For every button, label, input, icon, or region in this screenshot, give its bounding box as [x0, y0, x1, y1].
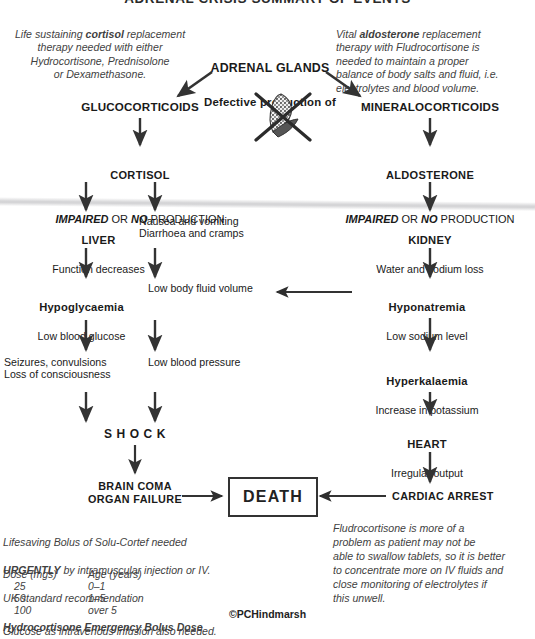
fludrocortisone-note: Fludrocortisone is more of a problem as …: [333, 521, 533, 605]
table-row: 25 0–1: [3, 581, 198, 593]
table-row: 50 1–5: [3, 593, 198, 605]
hypoglycaemia-sublabel: Low blood glucose: [14, 331, 149, 343]
liver-sublabel: Function decreases: [29, 264, 168, 276]
dose-value: 25: [3, 581, 88, 593]
kidney-sublabel: Water and sodium loss: [340, 264, 520, 276]
hypoglycaemia-node: Hypoglycaemia Low blood glucose: [14, 283, 149, 361]
hyponatremia-node: Hyponatremia Low sodium level: [352, 283, 502, 361]
dose-value: 50: [3, 593, 88, 605]
heart-node: HEART Irregular output: [352, 420, 502, 498]
hypoglycaemia-label: Hypoglycaemia: [14, 301, 149, 314]
aldosterone-note-keyword: aldosterone: [359, 28, 419, 40]
cortisol-replacement-note: Life sustaining cortisol replacement the…: [2, 14, 198, 82]
column-header-age: Age (years): [88, 569, 198, 581]
gi-symptoms-node: Nausea and vomiting Diarrhoea and cramps: [139, 216, 269, 240]
treatment-line-1: Lifesaving Bolus of Solu-Cortef needed: [3, 536, 187, 548]
adrenal-glands-label: ADRENAL GLANDS: [190, 62, 350, 76]
column-header-dose: Dose (mgs): [3, 569, 88, 581]
death-node: DEATH: [228, 477, 318, 517]
hyponatremia-sublabel: Low sodium level: [352, 331, 502, 343]
cortisol-note-keyword: cortisol: [86, 28, 124, 40]
heart-sublabel: Irregular output: [352, 468, 502, 480]
cardiac-arrest-node: CARDIAC ARREST: [392, 490, 532, 502]
aldosterone-replacement-note: Vital aldosterone replacement therapy wi…: [336, 14, 534, 95]
cortisol-note-part1: Life sustaining: [15, 28, 86, 40]
aldosterone-note-part1: Vital: [336, 28, 359, 40]
mineralocorticoids-node: MINERALOCORTICOIDS: [330, 100, 530, 113]
hyponatremia-label: Hyponatremia: [352, 301, 502, 314]
aldosterone-label: ALDOSTERONE: [325, 169, 535, 181]
diagram-canvas: ADRENAL CRISIS SUMMARY OF EVENTS Life su…: [0, 0, 535, 639]
seizures-node: Seizures, convulsions Loss of consciousn…: [4, 357, 144, 381]
copyright-label: ©PCHindmarsh: [0, 608, 535, 620]
crossed-out-adrenal-gland-icon: [248, 86, 318, 146]
page-title: ADRENAL CRISIS SUMMARY OF EVENTS: [0, 0, 535, 6]
kidney-label: KIDNEY: [340, 234, 520, 247]
age-value: 1–5: [88, 593, 198, 605]
hyperkalaemia-label: Hyperkalaemia: [352, 375, 502, 388]
cortisol-label: CORTISOL: [40, 169, 240, 181]
hyperkalaemia-sublabel: Increase in potassium: [352, 405, 502, 417]
age-value: 0–1: [88, 581, 198, 593]
brain-coma-organ-failure-node: BRAIN COMA ORGAN FAILURE: [55, 480, 215, 507]
glucocorticoids-node: GLUCOCORTICOIDS: [55, 100, 225, 113]
table-header-row: Dose (mgs) Age (years): [3, 569, 198, 581]
shock-node: S H O C K: [50, 428, 220, 441]
heart-label: HEART: [352, 438, 502, 451]
low-body-fluid-volume-node: Low body fluid volume: [148, 283, 273, 295]
glucose-infusion-note: Glucose as intravenous infusion also nee…: [3, 625, 283, 639]
low-blood-pressure-node: Low blood pressure: [148, 357, 273, 369]
